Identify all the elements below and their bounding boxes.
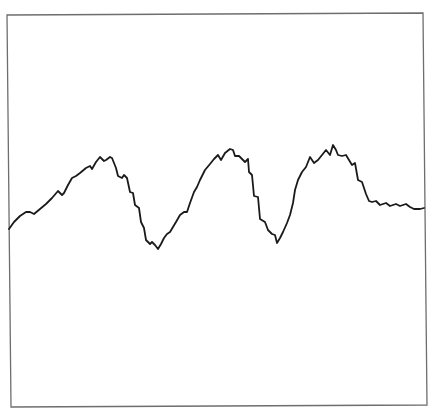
series-line [9, 145, 424, 249]
plot-frame [7, 13, 427, 407]
line-chart [0, 0, 434, 416]
